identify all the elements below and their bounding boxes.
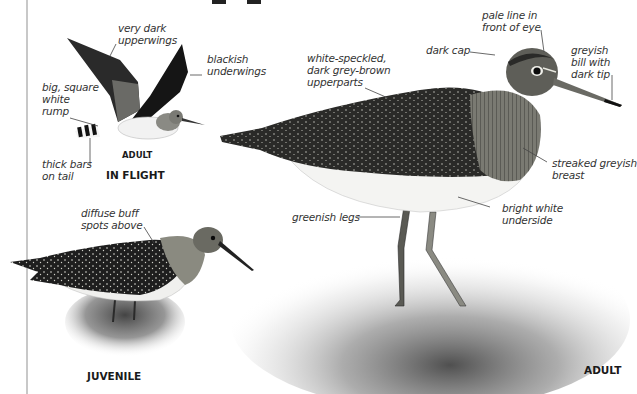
label-dark-cap: dark cap	[426, 44, 470, 56]
label-blackish-underwings: blackish underwings	[207, 53, 266, 77]
label-pale-eye-line: pale line in front of eye	[482, 9, 541, 33]
adult-breast	[470, 91, 541, 182]
label-streaked-breast: streaked greyish breast	[552, 157, 637, 181]
caption-in-flight: IN FLIGHT	[106, 169, 165, 181]
label-white-rump: big, square white rump	[42, 81, 99, 117]
caption-adult: ADULT	[584, 364, 621, 376]
adult-eye	[533, 67, 540, 74]
label-buff-spots: diffuse buff spots above	[81, 207, 142, 231]
label-white-underside: bright white underside	[502, 202, 563, 226]
label-greyish-bill: greyish bill with dark tip	[571, 44, 610, 80]
label-tail-bars: thick bars on tail	[42, 158, 92, 182]
caption-flight-adult: ADULT	[122, 150, 152, 160]
label-very-dark-upperwings: very dark upperwings	[118, 22, 177, 46]
label-upperparts: white-speckled, dark grey-brown upperpar…	[307, 52, 391, 88]
caption-juvenile: JUVENILE	[87, 370, 141, 382]
label-greenish-legs: greenish legs	[292, 211, 360, 223]
